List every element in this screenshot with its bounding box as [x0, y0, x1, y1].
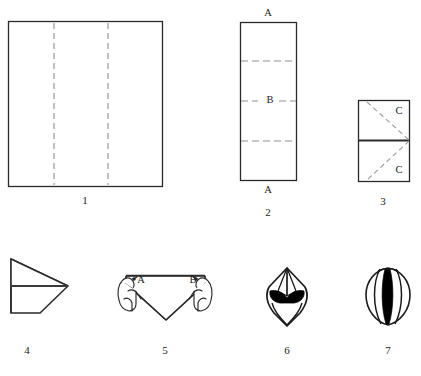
step-5-hands-pulling	[118, 276, 212, 321]
step-7-finished-tulip	[366, 268, 410, 325]
point-label-step3-top-c: C	[395, 106, 402, 117]
point-label-step5-a: A	[137, 275, 145, 286]
step-1-outline	[9, 22, 163, 187]
figure-canvas	[0, 0, 421, 376]
step-caption-6: 6	[284, 345, 290, 356]
step-4-upper-flap	[11, 259, 68, 286]
step-1-square	[9, 22, 163, 187]
step-caption-1: 1	[82, 195, 88, 206]
point-label-step2-bottom-a: A	[264, 185, 272, 196]
step-4-arrow-form	[10, 259, 68, 313]
step-6-bud-shape	[267, 268, 307, 326]
step-caption-3: 3	[380, 196, 386, 207]
left-hand-grip-point	[132, 277, 136, 281]
point-label-step5-b: B	[189, 275, 196, 286]
step-caption-4: 4	[24, 345, 30, 356]
point-label-step2-middle-b: B	[266, 95, 273, 106]
origami-instructions-figure: A B A C C A B 1 2 3 4 5 6 7	[0, 0, 421, 376]
point-label-step2-top-a: A	[264, 8, 272, 19]
point-label-step3-bottom-c: C	[395, 165, 402, 176]
step-caption-7: 7	[385, 345, 391, 356]
step-7-center-petal-shade	[382, 269, 393, 324]
step-caption-5: 5	[162, 345, 168, 356]
step-caption-2: 2	[265, 207, 271, 218]
